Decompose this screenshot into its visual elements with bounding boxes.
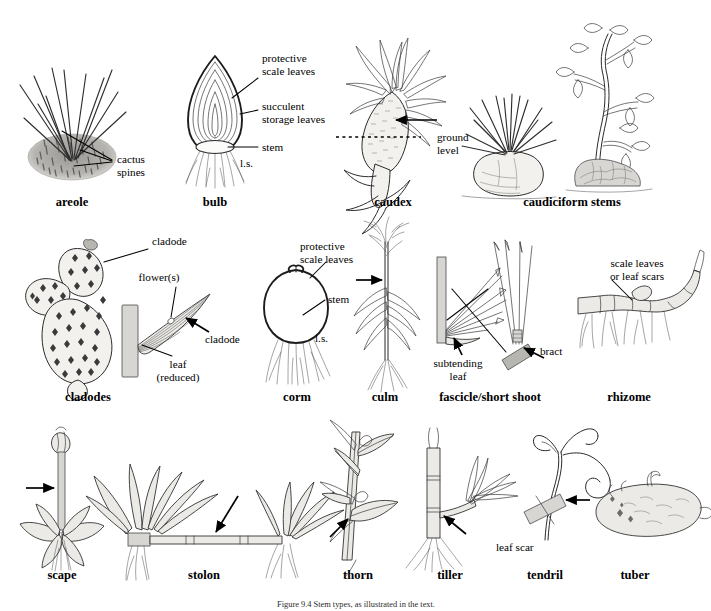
annotation-bulb-ls: l.s. [240,157,253,169]
term-label-cladodes: cladodes [65,390,111,404]
tiller-lateral-leaves [466,456,518,504]
annotation-cladode-lower: cladode [205,333,240,345]
annotation-corm-protective-line-1: protective [300,240,345,252]
stolon-pointer-arrow [216,496,238,532]
term-label-stolon: stolon [188,568,220,582]
stolon-left-tuft [86,464,218,534]
annotation-leaf-reduced-line-1: leaf [170,358,187,370]
annotation-caudex-ground-line-1: ground [437,131,469,143]
annotation-flowers: flower(s) [138,271,179,284]
caudiciform-branches [574,42,638,152]
stolon-right-roots [266,544,298,578]
annotation-cladode-upper: cladode [152,235,187,247]
culm-roots [368,360,407,392]
diagram-bulb: protective scale leaves succulent storag… [186,52,325,209]
diagram-rhizome: scale leaves or leaf scars rhizome [578,250,704,404]
tendril-leaf-scar-shape [524,494,566,524]
fascicle-bract-shape [502,344,534,370]
cladode-upper-leader [104,249,148,262]
term-label-fascicle-short-shoot: fascicle/short shoot [439,390,542,404]
annotation-corm-ls: l.s. [315,332,328,344]
term-label-tiller: tiller [437,568,463,582]
annotation-leaf-reduced-line-2: (reduced) [157,371,200,384]
term-label-tendril: tendril [527,568,564,582]
diagram-stolon: stolon [86,464,344,582]
term-label-areole: areole [56,195,89,209]
bulb-scale-layers [193,62,237,147]
corm-stem-leader [303,300,325,315]
stolon-left-roots [126,546,149,580]
annotation-rhizome-scale-line-1: scale leaves [610,257,663,269]
diagram-fascicle-short-shoot: subtending leaf bract fascicle/short sho… [433,240,563,404]
term-label-corm: corm [283,390,311,404]
flowers-leader [171,287,176,317]
thorn-leaves [322,434,398,521]
fascicle-needles [446,268,506,336]
term-label-caudiciform-stems: caudiciform stems [523,195,621,209]
term-label-bulb: bulb [203,195,227,209]
cladode-lower-arrow [186,318,209,332]
term-label-rhizome: rhizome [607,390,651,404]
figure-canvas: cactus spines areole [0,0,711,611]
annotation-rhizome-scale-line-2: or leaf scars [610,270,664,282]
diagram-culm: culm [354,217,420,404]
annotation-cactus-spines-line-1: cactus [117,153,145,165]
fascicle-upper-leader [447,289,488,320]
term-label-scape: scape [47,568,77,582]
rhizome-scale-leaf-shape [632,286,652,301]
term-label-culm: culm [372,390,399,404]
diagram-tuber: tuber [596,471,711,582]
diagram-corm: protective scale leaves stem l.s. corm [264,240,353,404]
annotation-subtending-leaf-line-1: subtending [433,357,483,369]
annotation-cactus-spines-line-2: spines [117,166,145,178]
annotation-bulb-protective-line-2: scale leaves [262,65,315,77]
diagram-cladodes: cladode flower(s) cladode leaf (reduced)… [26,235,240,404]
annotation-bulb-stem: stem [262,141,283,153]
stem-types-figure: cactus spines areole [0,0,711,611]
tiller-pointer-arrow [444,516,466,534]
bulb-roots [186,151,244,188]
annotation-corm-protective-line-2: scale leaves [300,253,353,265]
annotation-corm-stem: stem [328,293,349,305]
rhizome-roots [580,310,670,348]
diagram-caudiciform-stems: caudiciform stems [462,24,654,210]
tiller-roots [406,537,462,572]
diagram-tendril: leaf scar tendril [496,429,610,582]
diagram-tiller: tiller [406,428,518,582]
term-label-tuber: tuber [620,568,650,582]
annotation-bulb-protective-line-1: protective [262,52,307,64]
annotation-bulb-succulent-line-1: succulent [262,100,305,112]
diagram-scape: scape [20,427,104,582]
annotation-bract: bract [540,345,563,357]
culm-leaves [354,288,420,350]
diagram-thorn: thorn [320,420,398,582]
diagram-caudex: ground level caudex [336,38,469,234]
annotation-bulb-succulent-line-2: storage leaves [262,113,325,125]
corm-roots [266,340,330,385]
caudiciform-left-grass-blades [462,94,556,155]
annotation-caudex-ground-line-2: level [437,144,459,156]
fascicle-right-needles [494,240,532,344]
diagram-areole: cactus spines areole [20,68,145,209]
annotation-leaf-scar: leaf scar [496,541,534,553]
term-label-caudex: caudex [374,195,412,209]
figure-caption: Figure 9.4 Stem types, as illustrated in… [277,600,435,609]
annotation-subtending-leaf-line-2: leaf [450,370,467,382]
term-label-thorn: thorn [343,568,373,582]
